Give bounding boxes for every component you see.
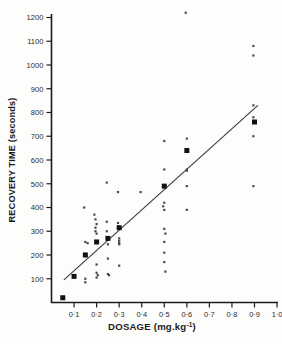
x-tick-label: 0·8 <box>227 310 238 319</box>
data-point <box>163 140 165 142</box>
y-tick-label: 700 <box>31 132 44 141</box>
y-axis-title: RECOVERY TIME (seconds) <box>7 98 17 223</box>
scatter-plot: 100200300400500600700800900100011001200 … <box>0 0 282 344</box>
data-point <box>163 228 165 230</box>
data-point <box>117 222 119 224</box>
x-axis-title-main: DOSAGE (mg.kg <box>108 321 186 332</box>
mean-point <box>105 236 110 241</box>
data-point <box>162 205 164 207</box>
y-tick-label: 500 <box>31 180 44 189</box>
mean-point <box>252 120 257 125</box>
data-point <box>93 214 95 216</box>
y-tick-label: 200 <box>31 251 44 260</box>
data-point <box>97 274 99 276</box>
x-tick-label: 0·7 <box>204 310 215 319</box>
data-point <box>186 138 188 140</box>
data-point <box>108 274 110 276</box>
data-point <box>84 281 86 283</box>
data-point <box>163 209 165 211</box>
y-tick-label: 600 <box>31 156 44 165</box>
data-point <box>86 242 88 244</box>
data-point <box>163 261 165 263</box>
y-tick-label: 300 <box>31 227 44 236</box>
data-point <box>163 252 165 254</box>
y-axis-ticks: 100200300400500600700800900100011001200 <box>27 13 52 283</box>
data-point <box>163 241 165 243</box>
regression-line-segment <box>64 105 258 280</box>
x-tick-label: 0·3 <box>114 310 125 319</box>
data-point <box>252 54 254 56</box>
y-tick-label: 800 <box>31 108 44 117</box>
mean-point <box>83 253 88 258</box>
x-tick-label: 0·6 <box>181 310 192 319</box>
mean-point <box>117 225 122 230</box>
y-tick-label: 400 <box>31 203 44 212</box>
data-point <box>252 185 254 187</box>
data-point <box>106 181 108 183</box>
data-point <box>164 271 166 273</box>
x-tick-label: 0·4 <box>136 310 147 319</box>
data-point <box>252 45 254 47</box>
y-tick-label: 1000 <box>27 61 44 70</box>
data-point <box>94 218 96 220</box>
data-point <box>107 257 109 259</box>
mean-point <box>72 274 77 279</box>
data-point <box>252 135 254 137</box>
x-tick-label: 0·5 <box>159 310 170 319</box>
regression-line <box>64 105 258 280</box>
data-point <box>96 233 98 235</box>
data-point <box>118 237 120 239</box>
data-point <box>252 116 254 118</box>
data-point <box>94 227 96 229</box>
x-axis-title-close: ) <box>192 321 195 332</box>
data-point <box>94 230 96 232</box>
x-tick-label: 1·0 <box>272 310 282 319</box>
data-point <box>186 209 188 211</box>
x-tick-label: 0·1 <box>69 310 80 319</box>
data-point <box>186 170 188 172</box>
data-point <box>139 191 141 193</box>
data-point <box>83 206 85 208</box>
data-point <box>118 265 120 267</box>
data-point <box>107 243 109 245</box>
y-tick-label: 1200 <box>27 13 44 22</box>
y-tick-label: 100 <box>31 275 44 284</box>
figure-container: 100200300400500600700800900100011001200 … <box>0 0 282 344</box>
data-point <box>186 185 188 187</box>
data-point <box>163 202 165 204</box>
mean-point <box>60 295 65 300</box>
data-point <box>96 276 98 278</box>
x-tick-label: 0·2 <box>91 310 102 319</box>
data-point <box>118 243 120 245</box>
mean-point <box>162 184 167 189</box>
x-axis-title: DOSAGE (mg.kg-1) <box>108 321 196 332</box>
data-points-means <box>60 120 257 301</box>
y-tick-label: 900 <box>31 85 44 94</box>
x-tick-label: 0·9 <box>249 310 260 319</box>
data-point <box>185 12 187 14</box>
axes-lines <box>51 14 278 303</box>
data-point <box>96 263 98 265</box>
data-point <box>163 168 165 170</box>
data-point <box>106 221 108 223</box>
data-point <box>252 104 254 106</box>
y-tick-label: 1100 <box>27 37 43 46</box>
mean-point <box>94 239 99 244</box>
data-point <box>96 223 98 225</box>
data-point <box>84 241 86 243</box>
data-point <box>117 191 119 193</box>
data-point <box>118 240 120 242</box>
data-point <box>164 233 166 235</box>
data-point <box>84 278 86 280</box>
x-axis-ticks: 0·10·20·30·40·50·60·70·80·91·0 <box>69 303 282 319</box>
data-point <box>106 230 108 232</box>
data-point <box>96 272 98 274</box>
mean-point <box>184 148 189 153</box>
